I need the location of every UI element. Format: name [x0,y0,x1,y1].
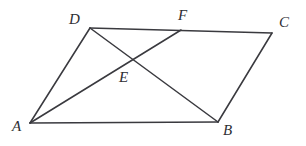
vertex-label-C: C [279,15,289,30]
geometry-canvas [0,0,306,146]
vertex-label-E: E [119,70,128,85]
segment-AF [30,30,181,123]
vertex-label-B: B [223,123,232,138]
vertex-label-F: F [178,8,187,23]
vertex-label-D: D [69,12,80,27]
segment-AB [30,122,218,123]
vertex-label-A: A [12,119,21,134]
segment-AD [30,28,90,123]
figure-outline [30,28,272,123]
geometry-figure: D F C E A B [0,0,306,146]
segment-BC [218,33,272,122]
